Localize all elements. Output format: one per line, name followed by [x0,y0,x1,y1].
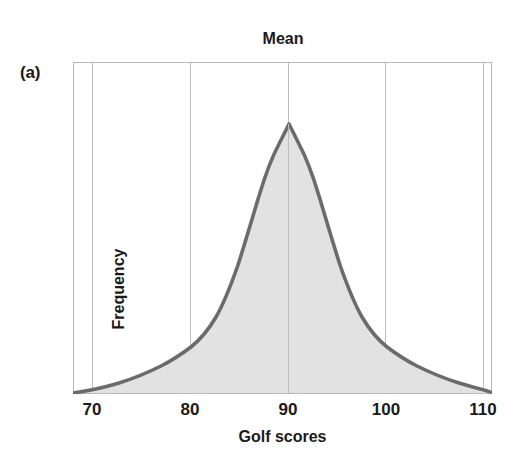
chart-title: Mean [73,30,493,48]
distribution-area-fill [73,124,492,393]
x-tick-label-100: 100 [356,400,416,420]
x-tick-label-90: 90 [258,400,318,420]
distribution-plot [73,62,492,394]
x-tick-label-70: 70 [62,400,122,420]
panel-letter: (a) [20,63,40,83]
x-tick-label-110: 110 [453,400,513,420]
x-axis-title: Golf scores [73,428,492,446]
x-tick-label-80: 80 [160,400,220,420]
plot-area: Frequency [73,62,492,394]
y-axis-title: Frequency [110,199,128,379]
chart-figure: (a) Mean Frequency 70 80 90 100 110 Golf… [0,0,525,472]
